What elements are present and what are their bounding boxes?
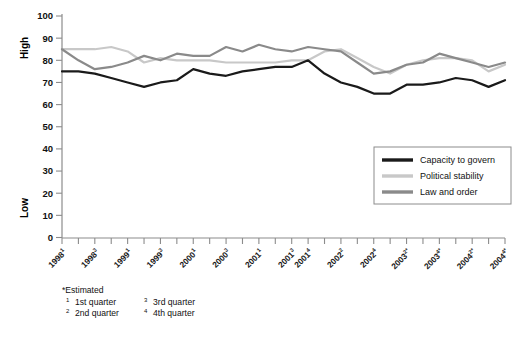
x-tick-label-text: 20034*	[421, 246, 446, 271]
legend-label: Law and order	[420, 187, 478, 197]
x-tick-label: 20022	[325, 247, 348, 270]
x-tick-label-text: 19983	[78, 247, 101, 270]
x-tick-label-text: 20022	[325, 247, 348, 270]
x-tick-label: 20011	[242, 247, 265, 270]
footnotes: *Estimated 11st quarter22nd quarter33rd …	[62, 285, 195, 318]
y-tick-label: 90	[42, 33, 53, 44]
footnote-sup: 3	[144, 297, 148, 303]
x-tick-label-text: 20024	[357, 246, 380, 269]
series-lines	[62, 45, 505, 94]
footnote-quarters: 11st quarter22nd quarter33rd quarter44th…	[66, 297, 195, 318]
series-line-capacity-to-govern	[62, 60, 505, 93]
y-tick-label: 80	[42, 55, 53, 66]
footnote-text: 3rd quarter	[153, 297, 195, 307]
legend-label: Political stability	[420, 171, 484, 181]
legend: Capacity to governPolitical stabilityLaw…	[374, 147, 511, 204]
x-tick-label-text: 20042*	[454, 246, 479, 271]
x-tick-label-text: 19993	[144, 247, 167, 270]
y-tick-label: 100	[37, 10, 53, 21]
y-tick-label: 20	[42, 188, 53, 199]
y-axis-group: 0102030405060708090100 High Low	[19, 10, 62, 243]
x-tick-label-text: 20011	[242, 247, 265, 270]
footnote-sup: 2	[66, 308, 70, 314]
x-tick-label-text: 20044*	[487, 246, 512, 271]
x-axis-ticks	[62, 238, 505, 244]
x-axis-group: 1998119983199911999320001200032001120013…	[46, 238, 512, 271]
x-tick-label-text: 20014	[292, 246, 315, 269]
footnote-text: 4th quarter	[153, 308, 195, 318]
x-tick-label: 19981	[46, 247, 69, 270]
footnote-text: 1st quarter	[75, 297, 116, 307]
x-tick-label-text: 20001	[177, 247, 200, 270]
x-axis-labels: 1998119983199911999320001200032001120013…	[46, 246, 512, 271]
x-tick-label: 20001	[177, 247, 200, 270]
y-axis-low-label: Low	[19, 198, 30, 218]
x-tick-label-text: 20003	[210, 247, 233, 270]
x-tick-label: 20014	[292, 246, 315, 269]
chart-container: 0102030405060708090100 High Low 19981199…	[0, 0, 525, 340]
x-tick-label-text: 19981	[46, 247, 69, 270]
y-tick-label: 60	[42, 99, 53, 110]
footnote-estimated: *Estimated	[62, 285, 104, 295]
x-tick-label: 19983	[78, 247, 101, 270]
y-axis-high-label: High	[19, 37, 30, 59]
y-tick-label: 70	[42, 77, 53, 88]
x-tick-label: 20034*	[421, 246, 446, 271]
y-tick-label: 10	[42, 210, 53, 221]
y-tick-label: 40	[42, 143, 53, 154]
x-tick-label: 20044*	[487, 246, 512, 271]
legend-label: Capacity to govern	[420, 155, 495, 165]
footnote-sup: 1	[66, 297, 70, 303]
y-tick-label: 30	[42, 165, 53, 176]
x-tick-label: 20003	[210, 247, 233, 270]
footnote-sup: 4	[144, 308, 148, 314]
x-tick-label: 19993	[144, 247, 167, 270]
footnote-text: 2nd quarter	[75, 308, 119, 318]
x-tick-label: 20024	[357, 246, 380, 269]
line-chart: 0102030405060708090100 High Low 19981199…	[0, 0, 525, 340]
x-tick-label-text: 19991	[111, 247, 134, 270]
x-tick-label: 20042*	[454, 246, 479, 271]
y-axis-ticks: 0102030405060708090100	[37, 10, 62, 243]
y-tick-label: 0	[48, 232, 53, 243]
y-tick-label: 50	[42, 121, 53, 132]
x-tick-label-text: 20032*	[389, 246, 414, 271]
x-tick-label: 19991	[111, 247, 134, 270]
x-tick-label: 20032*	[389, 246, 414, 271]
